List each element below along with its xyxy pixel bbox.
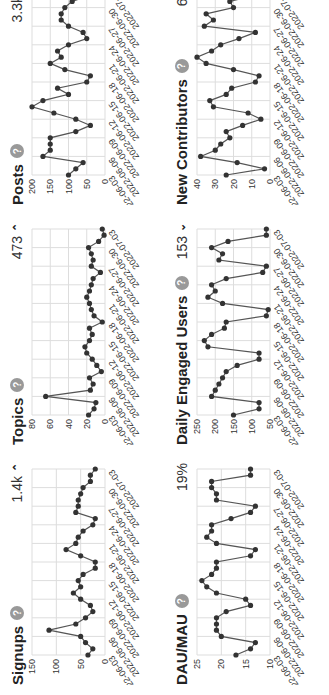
daily-engaged-users-chart: 501001502002502022-06-032022-06-062022-0… — [193, 223, 328, 445]
card-daily-engaged-users: Daily Engaged Users ? 153 ⌄ 501001502002… — [165, 215, 329, 455]
card-value: 153 — [174, 236, 190, 259]
card-title: Signups — [9, 626, 26, 685]
svg-text:200: 200 — [28, 179, 37, 194]
card-value: 19% — [174, 463, 190, 491]
posts-chart: 0501001502002022-06-032022-06-062022-06-… — [28, 0, 163, 205]
svg-text:150: 150 — [45, 179, 55, 194]
svg-text:40: 40 — [193, 179, 202, 189]
dau-mau-chart: 101520252022-06-032022-06-062022-06-0920… — [193, 463, 328, 685]
card-value-wrap: 3.3k ⌄ — [9, 0, 25, 22]
svg-text:20: 20 — [228, 179, 238, 189]
svg-text:100: 100 — [246, 419, 256, 434]
svg-text:80: 80 — [28, 419, 37, 429]
signups-chart: 0501001502022-06-032022-06-062022-06-092… — [28, 463, 163, 685]
help-icon[interactable]: ? — [10, 606, 24, 620]
metrics-grid: Signups ? 1.4k ⌃ 0501001502022-06-032022… — [0, 0, 329, 695]
svg-text:20: 20 — [216, 659, 226, 669]
svg-text:40: 40 — [64, 419, 74, 429]
dashboard-rotated: Signups ? 1.4k ⌃ 0501001502022-06-032022… — [0, 0, 329, 695]
svg-text:100: 100 — [64, 179, 74, 194]
svg-text:15: 15 — [240, 659, 250, 669]
card-value: 677 — [174, 0, 190, 6]
card-value-wrap: 1.4k ⌃ — [9, 463, 25, 502]
help-icon[interactable]: ? — [10, 378, 24, 392]
new-contributors-chart: 0102030402022-06-032022-06-062022-06-092… — [193, 0, 328, 205]
svg-text:250: 250 — [193, 419, 202, 434]
svg-text:200: 200 — [210, 419, 220, 434]
card-title: Topics — [9, 398, 26, 445]
card-title: Daily Engaged Users — [173, 296, 190, 445]
svg-text:10: 10 — [246, 179, 256, 189]
help-icon[interactable]: ? — [175, 59, 189, 73]
card-title: DAU/MAU — [173, 614, 190, 685]
card-value: 473 — [9, 236, 25, 259]
svg-text:100: 100 — [51, 659, 61, 674]
help-icon[interactable]: ? — [175, 276, 189, 290]
svg-text:50: 50 — [82, 179, 92, 189]
card-value-wrap: 677 — [174, 0, 190, 6]
svg-text:60: 60 — [45, 419, 55, 429]
chevron-up-icon: ⌃ — [11, 463, 24, 472]
card-signups: Signups ? 1.4k ⌃ 0501001502022-06-032022… — [0, 455, 165, 695]
card-posts: Posts ? 3.3k ⌄ 0501001502002022-06-03202… — [0, 0, 165, 215]
card-dau-mau: DAU/MAU ? 19% 101520252022-06-032022-06-… — [165, 455, 329, 695]
topics-chart: 0204060802022-06-032022-06-062022-06-092… — [28, 223, 163, 445]
chevron-up-icon: ⌃ — [11, 223, 24, 232]
help-icon[interactable]: ? — [175, 594, 189, 608]
svg-text:50: 50 — [76, 659, 86, 669]
card-value-wrap: 473 ⌃ — [9, 223, 25, 259]
svg-text:150: 150 — [228, 419, 238, 434]
card-value: 3.3k — [9, 0, 25, 22]
svg-text:150: 150 — [28, 659, 37, 674]
card-value-wrap: 19% — [174, 463, 190, 491]
card-title: Posts — [9, 164, 26, 205]
svg-text:25: 25 — [193, 659, 202, 669]
card-title: New Contributors — [173, 79, 190, 205]
card-value-wrap: 153 ⌄ — [174, 223, 190, 259]
svg-text:30: 30 — [210, 179, 220, 189]
card-new-contributors: New Contributors ? 677 0102030402022-06-… — [165, 0, 329, 215]
svg-text:20: 20 — [82, 419, 92, 429]
card-topics: Topics ? 473 ⌃ 0204060802022-06-032022-0… — [0, 215, 165, 455]
card-value: 1.4k — [9, 476, 25, 502]
chevron-down-icon: ⌄ — [175, 223, 188, 232]
help-icon[interactable]: ? — [10, 144, 24, 158]
